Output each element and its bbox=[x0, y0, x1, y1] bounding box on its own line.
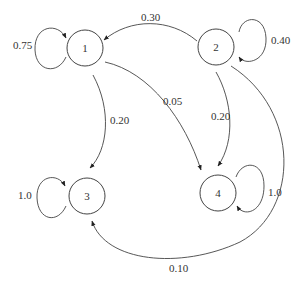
edge-label-4-to-4: 1.0 bbox=[268, 186, 282, 198]
node-label-3: 3 bbox=[84, 190, 90, 202]
edge-label-3-to-3: 1.0 bbox=[18, 189, 32, 201]
node-1: 1 bbox=[67, 30, 103, 66]
edge-1-to-3: 0.20 bbox=[90, 75, 130, 168]
markov-chain-diagram: 0.75 0.30 0.40 0.20 0.05 0.20 0.10 1.0 1… bbox=[0, 0, 304, 285]
edge-2-to-4: 0.20 bbox=[211, 72, 231, 166]
edge-label-1-to-1: 0.75 bbox=[13, 39, 33, 51]
node-4: 4 bbox=[200, 175, 236, 211]
node-label-1: 1 bbox=[82, 42, 88, 54]
edge-label-1-to-4: 0.05 bbox=[163, 95, 183, 107]
edge-label-1-to-3: 0.20 bbox=[110, 114, 130, 126]
node-label-4: 4 bbox=[215, 187, 221, 199]
node-2: 2 bbox=[198, 29, 234, 65]
node-label-2: 2 bbox=[213, 41, 219, 53]
edge-label-2-to-3: 0.10 bbox=[169, 262, 189, 274]
edge-2-to-3: 0.10 bbox=[92, 66, 284, 274]
edge-4-to-4: 1.0 bbox=[236, 165, 282, 212]
edge-label-2-to-4: 0.20 bbox=[211, 110, 231, 122]
edge-3-to-3: 1.0 bbox=[18, 178, 66, 218]
edge-label-2-to-1: 0.30 bbox=[141, 11, 161, 23]
edge-2-to-1: 0.30 bbox=[104, 11, 197, 41]
edge-1-to-1: 0.75 bbox=[13, 28, 66, 69]
edge-2-to-2: 0.40 bbox=[239, 20, 291, 62]
edge-label-2-to-2: 0.40 bbox=[271, 34, 291, 46]
node-3: 3 bbox=[69, 178, 105, 214]
